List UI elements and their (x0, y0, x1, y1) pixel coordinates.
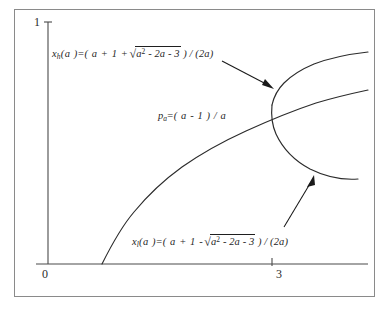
x-high-radical: √a2 - 2a - 3 (129, 46, 181, 62)
figure-container: 1 0 3 xh(a )=( a + 1 +√a2 - 2a - 3 ) / (… (0, 0, 390, 312)
p-a-body: ( a - 1 ) / a (174, 110, 227, 121)
equation-label-x-low: xl(a )=( a + 1 -√a2 - 2a - 3 ) / (2a) (132, 234, 288, 250)
y-axis-tick-label-1: 1 (34, 15, 40, 30)
equation-label-p-a: pa=( a - 1 ) / a (158, 110, 226, 123)
x-high-arg: (a ) (61, 48, 78, 59)
x-low-arg: (a ) (139, 236, 156, 247)
x-high-radical-body: a2 - 2a - 3 (135, 46, 180, 59)
x-low-radical-rest: - 2a - 3 (220, 236, 254, 247)
x-low-open: ( a + 1 - (163, 236, 203, 247)
curve-x-low (272, 105, 358, 179)
x-high-radical-rest: - 2a - 3 (145, 48, 179, 59)
arrow-head-x-low (307, 175, 315, 187)
x-low-close: ) / (2a) (255, 236, 288, 247)
x-low-radical-body: a2 - 2a - 3 (210, 234, 255, 247)
x-low-radical: √a2 - 2a - 3 (203, 234, 255, 250)
arrow-line-x-high (222, 61, 268, 85)
equation-label-x-high: xh(a )=( a + 1 +√a2 - 2a - 3 ) / (2a) (52, 46, 213, 62)
arrow-line-x-low (284, 182, 311, 227)
x-high-open: ( a + 1 + (84, 48, 128, 59)
curve-x-high (272, 52, 368, 105)
x-axis-tick-label-3: 3 (276, 267, 282, 282)
x-high-close: ) / (2a) (181, 48, 214, 59)
x-axis-tick-label-0: 0 (42, 267, 48, 282)
arrow-head-x-high (262, 79, 274, 89)
